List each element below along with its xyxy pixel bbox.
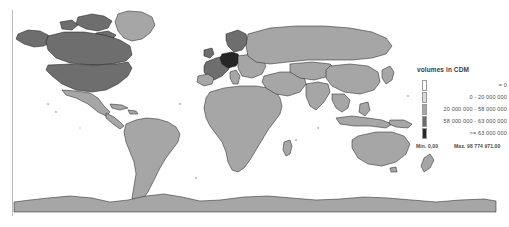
region-central-america[interactable] [106,113,124,129]
legend-label-3: 58 000 000 - 63 000 000 [431,118,509,124]
legend-title: volumes in CDM [417,66,509,73]
map-frame-left-rule [12,10,13,216]
island-dot-b [55,111,57,113]
legend-row[interactable]: 20 000 000 - 58 000 000 [414,103,509,115]
map-legend: volumes in CDM = 0 0 - 20 000 000 20 000… [414,66,509,149]
island-dot-d [295,139,297,141]
legend-swatch-1 [422,92,427,103]
region-indonesia[interactable] [336,116,392,128]
region-arctic-island-b[interactable] [60,20,78,30]
legend-swatch-4 [422,128,427,139]
region-australia[interactable] [352,132,410,166]
legend-label-2: 20 000 000 - 58 000 000 [431,106,509,112]
world-choropleth-map-figure: volumes in CDM = 0 0 - 20 000 000 20 000… [0,0,509,227]
island-dot-c [179,103,181,105]
legend-label-0: = 0 [431,82,509,88]
region-uk[interactable] [204,48,214,58]
island-dot-f [407,95,409,97]
region-cuba[interactable] [110,104,128,110]
region-africa[interactable] [204,86,282,172]
island-dot-g [195,177,197,179]
legend-swatch-2 [422,104,427,115]
legend-swatch-3 [422,116,427,127]
region-new-zealand[interactable] [421,154,434,172]
legend-row[interactable]: 58 000 000 - 63 000 000 [414,115,509,127]
region-hispaniola[interactable] [128,110,138,114]
region-philippines[interactable] [359,102,370,116]
region-tasmania[interactable] [390,167,397,172]
region-china[interactable] [326,64,380,94]
region-greenland[interactable] [115,11,155,41]
region-canada[interactable] [46,32,132,65]
region-canada-arctic[interactable] [76,14,112,31]
island-dot-h [79,127,81,129]
island-dot-e [317,127,319,129]
legend-label-1: 0 - 20 000 000 [431,94,509,100]
region-southeast-asia[interactable] [332,94,350,112]
legend-stats: Min. 0,00 Max. 98 774 971,00 [416,143,509,149]
legend-row[interactable]: = 0 [414,79,509,91]
legend-label-4: >= 63 000 000 [431,130,509,136]
region-antarctica[interactable] [14,194,496,212]
legend-swatch-0 [422,80,427,91]
region-scandinavia[interactable] [226,30,248,52]
region-india[interactable] [306,82,330,110]
legend-min-value: Min. 0,00 [416,143,454,149]
region-japan[interactable] [382,66,394,84]
region-italy[interactable] [230,70,240,84]
legend-row[interactable]: 0 - 20 000 000 [414,91,509,103]
region-united-states[interactable] [46,62,132,92]
region-mexico[interactable] [62,90,110,116]
region-new-guinea[interactable] [389,120,412,128]
island-dot-a [47,103,49,105]
legend-max-value: Max. 98 774 971,00 [454,143,500,149]
region-south-america[interactable] [124,118,180,204]
region-russia[interactable] [246,26,392,64]
legend-row[interactable]: >= 63 000 000 [414,127,509,139]
region-madagascar[interactable] [283,140,292,156]
